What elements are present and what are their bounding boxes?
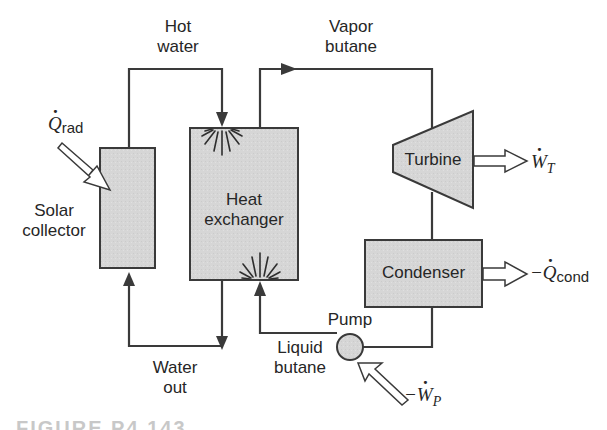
heat-exchanger-label: Heat exchanger [190,190,298,230]
condenser-label: Condenser [365,263,482,283]
water-out-label: Water out [140,358,210,398]
w-p-sign: − [404,384,417,405]
w-t-letter: W [531,151,547,173]
solar-collector-label-line2: collector [14,221,94,241]
liquid-butane-label-line2: butane [267,358,333,378]
figure-caption: FIGURE P4.143 [16,418,187,430]
pump-circle[interactable] [337,334,363,360]
collector-inlet-arrowhead [123,272,135,286]
vapor-butane-label-line1: Vapor [318,17,384,37]
w-t-symbol: WT [531,151,555,175]
heat-exchanger-label-line2: exchanger [190,210,298,230]
w-t-subscript: T [547,161,555,176]
w-p-subscript: P [433,394,442,409]
w-p-symbol: −WP [404,384,441,408]
liquid-butane-label: Liquid butane [267,338,333,378]
turbine-label: Turbine [393,150,473,170]
hot-water-label-line1: Hot [150,17,206,37]
solar-collector-box[interactable] [100,148,155,268]
hot-water-label: Hot water [150,17,206,57]
pump-label: Pump [320,310,380,330]
liquid-butane-arrowhead [254,281,266,296]
q-rad-letter: Q [48,113,62,135]
water-out-label-line2: out [140,378,210,398]
q-cond-letter: Q [543,262,557,284]
q-rad-subscript: rad [62,119,84,136]
q-cond-sign: − [530,262,543,283]
solar-collector-label: Solar collector [14,201,94,241]
q-cond-arrow-icon [483,262,527,286]
q-cond-subscript: cond [557,268,590,285]
q-rad-symbol: Qrad [48,113,83,136]
vapor-butane-pipe [260,69,432,130]
vapor-butane-arrowhead [281,63,297,75]
water-out-label-line1: Water [140,358,210,378]
w-t-arrow-icon [474,150,527,172]
vapor-butane-label: Vapor butane [318,17,384,57]
solar-collector-label-line1: Solar [14,201,94,221]
water-out-pipe [129,280,222,346]
hot-water-arrowhead [216,112,228,127]
hot-water-label-line2: water [150,37,206,57]
water-out-arrowhead [216,336,228,350]
liquid-butane-label-line1: Liquid [267,338,333,358]
q-cond-symbol: −Qcond [530,262,589,285]
w-p-arrow-icon [358,363,408,405]
heat-exchanger-label-line1: Heat [190,190,298,210]
vapor-butane-label-line2: butane [318,37,384,57]
w-p-letter: W [417,384,433,406]
